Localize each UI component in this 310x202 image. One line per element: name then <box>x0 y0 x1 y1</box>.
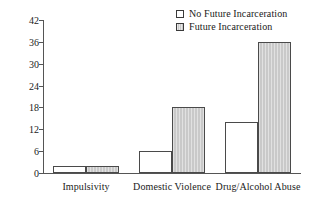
legend-swatch-icon-no-future-incarceration <box>176 10 184 18</box>
y-tick-label: 6 <box>34 146 39 157</box>
bar <box>53 166 86 173</box>
y-tick-mark <box>39 129 43 130</box>
bar-chart: No Future Incarceration Future Incarcera… <box>0 0 310 202</box>
legend-label-no-future-incarceration: No Future Incarceration <box>189 9 287 19</box>
x-axis-line <box>43 173 301 174</box>
y-tick-mark <box>39 42 43 43</box>
y-tick-label: 0 <box>34 168 39 179</box>
y-tick-mark <box>39 107 43 108</box>
y-tick-label: 30 <box>29 58 39 69</box>
bar <box>258 42 291 173</box>
legend-item-no-future-incarceration: No Future Incarceration <box>176 9 287 19</box>
y-axis-line <box>43 20 44 173</box>
plot-area: 06121824303642 <box>43 20 301 173</box>
y-tick-mark <box>39 173 43 174</box>
y-tick-label: 24 <box>29 80 39 91</box>
y-tick-mark <box>39 86 43 87</box>
x-axis-label: Drug/Alcohol Abuse <box>216 181 301 192</box>
bar <box>86 166 119 173</box>
bar <box>225 122 258 173</box>
y-tick-label: 18 <box>29 102 39 113</box>
y-tick-label: 36 <box>29 36 39 47</box>
y-tick-mark <box>39 64 43 65</box>
x-axis-label: Impulsivity <box>62 181 109 192</box>
bar <box>139 151 172 173</box>
x-axis-label: Domestic Violence <box>133 181 211 192</box>
y-tick-label: 12 <box>29 124 39 135</box>
y-tick-mark <box>39 151 43 152</box>
bar <box>172 107 205 173</box>
y-tick-mark <box>39 20 43 21</box>
y-tick-label: 42 <box>29 15 39 26</box>
